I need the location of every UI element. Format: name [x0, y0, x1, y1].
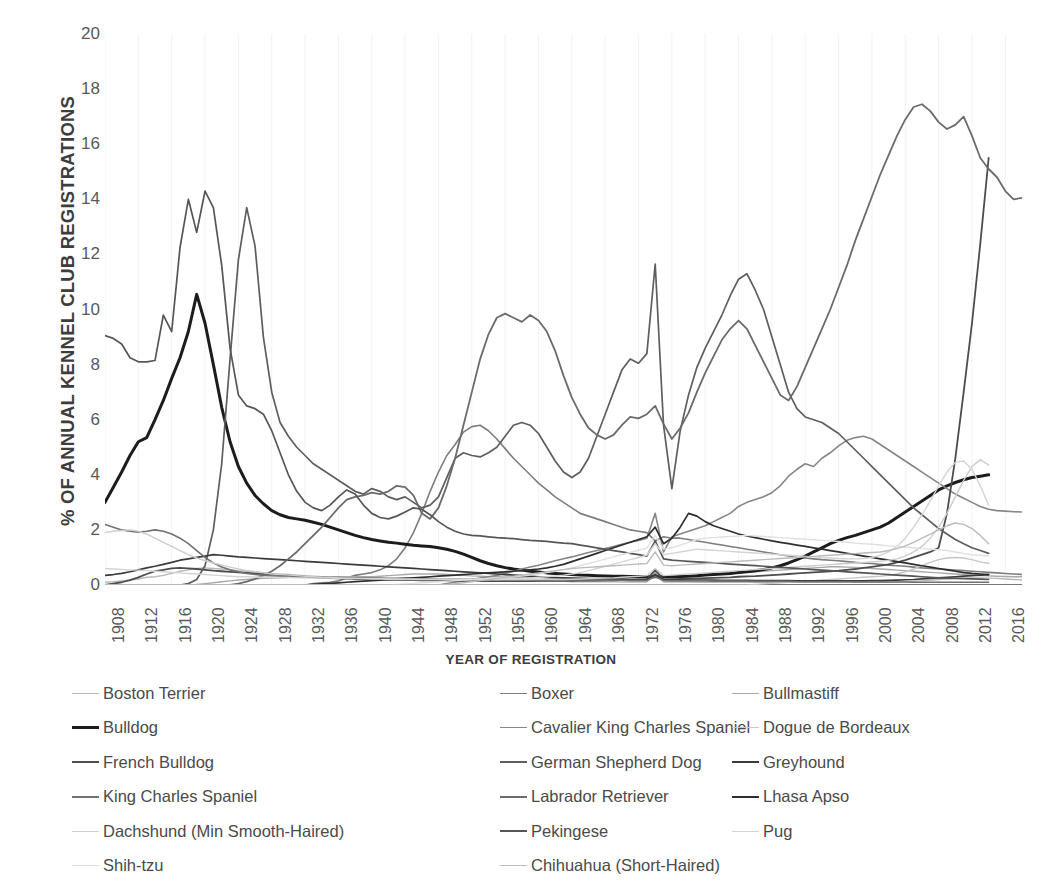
line-chart: % OF ANNUAL KENNEL CLUB REGISTRATIONS 20… — [0, 0, 1062, 895]
legend-row: Dachshund (Min Smooth-Haired)PekingesePu… — [72, 814, 1052, 849]
legend-item[interactable]: Shih-tzu — [72, 856, 500, 875]
legend-row: BulldogCavalier King Charles SpanielDogu… — [72, 711, 1052, 746]
legend-label: Dachshund (Min Smooth-Haired) — [103, 822, 344, 841]
x-tick-label: 1984 — [745, 607, 761, 643]
legend-item[interactable]: Pug — [732, 822, 1052, 841]
legend-label: Dogue de Bordeaux — [763, 718, 910, 737]
y-tick-label: 0 — [60, 576, 100, 593]
x-tick-label: 1976 — [678, 607, 694, 643]
y-tick-label: 4 — [60, 466, 100, 483]
series-line — [105, 436, 1022, 585]
legend-swatch-icon — [72, 796, 99, 798]
plot-area — [105, 34, 1022, 585]
x-axis-tick-labels: 1908191219161920192419281932193619401944… — [105, 585, 1022, 655]
x-tick-label: 1952 — [478, 607, 494, 643]
chart-legend: Boston TerrierBoxerBullmastiffBulldogCav… — [72, 676, 1052, 883]
legend-row: Boston TerrierBoxerBullmastiff — [72, 676, 1052, 711]
legend-item[interactable]: Greyhound — [732, 753, 1052, 772]
legend-label: Pug — [763, 822, 792, 841]
legend-item[interactable]: Labrador Retriever — [500, 787, 732, 806]
x-tick-label: 1988 — [778, 607, 794, 643]
x-tick-label: 1960 — [544, 607, 560, 643]
legend-swatch-icon — [72, 726, 99, 729]
legend-label: German Shepherd Dog — [531, 753, 702, 772]
legend-item[interactable]: Dachshund (Min Smooth-Haired) — [72, 822, 500, 841]
legend-swatch-icon — [500, 761, 527, 763]
legend-row: King Charles SpanielLabrador RetrieverLh… — [72, 780, 1052, 815]
series-line — [105, 104, 1022, 585]
x-tick-label: 1980 — [711, 607, 727, 643]
legend-label: French Bulldog — [103, 753, 214, 772]
y-tick-label: 10 — [60, 301, 100, 318]
legend-swatch-icon — [500, 830, 527, 832]
legend-swatch-icon — [500, 693, 527, 694]
x-tick-label: 1932 — [311, 607, 327, 643]
legend-label: Bulldog — [103, 718, 158, 737]
series-line — [105, 523, 989, 585]
legend-label: King Charles Spaniel — [103, 787, 257, 806]
y-tick-label: 14 — [60, 190, 100, 207]
legend-swatch-icon — [732, 727, 759, 728]
legend-label: Boston Terrier — [103, 684, 205, 703]
y-tick-label: 18 — [60, 80, 100, 97]
y-tick-label: 20 — [60, 25, 100, 42]
legend-swatch-icon — [732, 831, 759, 832]
legend-swatch-icon — [72, 693, 99, 694]
legend-swatch-icon — [72, 761, 99, 763]
y-tick-label: 2 — [60, 521, 100, 538]
legend-item[interactable]: Pekingese — [500, 822, 732, 841]
x-tick-label: 1968 — [611, 607, 627, 643]
series-line — [105, 294, 989, 576]
legend-item[interactable]: King Charles Spaniel — [72, 787, 500, 806]
legend-label: Pekingese — [531, 822, 608, 841]
legend-label: Cavalier King Charles Spaniel — [531, 718, 750, 737]
legend-item[interactable]: Boston Terrier — [72, 684, 500, 703]
legend-swatch-icon — [732, 796, 759, 798]
x-axis-title: YEAR OF REGISTRATION — [0, 652, 1062, 667]
y-tick-label: 6 — [60, 411, 100, 428]
legend-item[interactable]: Lhasa Apso — [732, 787, 1052, 806]
legend-label: Greyhound — [763, 753, 845, 772]
series-line — [105, 191, 989, 579]
legend-item[interactable]: German Shepherd Dog — [500, 753, 732, 772]
legend-label: Boxer — [531, 684, 574, 703]
legend-item[interactable]: Bulldog — [72, 718, 500, 737]
x-tick-label: 1924 — [244, 607, 260, 643]
x-tick-label: 1964 — [578, 607, 594, 643]
x-tick-label: 1940 — [378, 607, 394, 643]
series-line — [105, 208, 989, 585]
legend-label: Shih-tzu — [103, 856, 164, 875]
legend-item[interactable]: Dogue de Bordeaux — [732, 718, 1052, 737]
legend-item[interactable]: Boxer — [500, 684, 732, 703]
x-tick-label: 1936 — [344, 607, 360, 643]
x-tick-label: 2008 — [945, 607, 961, 643]
legend-row: French BulldogGerman Shepherd DogGreyhou… — [72, 745, 1052, 780]
legend-swatch-icon — [72, 831, 99, 832]
x-tick-label: 1956 — [511, 607, 527, 643]
x-tick-label: 2012 — [978, 607, 994, 643]
x-tick-label: 2000 — [878, 607, 894, 643]
legend-item[interactable]: French Bulldog — [72, 753, 500, 772]
y-tick-label: 8 — [60, 356, 100, 373]
legend-item[interactable]: Bullmastiff — [732, 684, 1052, 703]
series-line — [105, 460, 989, 580]
legend-row: Shih-tzuChihuahua (Short-Haired) — [72, 849, 1052, 884]
legend-label: Bullmastiff — [763, 684, 839, 703]
x-tick-label: 2004 — [911, 607, 927, 643]
legend-swatch-icon — [732, 761, 759, 763]
x-tick-label: 2016 — [1011, 607, 1027, 643]
legend-item[interactable]: Chihuahua (Short-Haired) — [500, 856, 732, 875]
x-tick-label: 1944 — [411, 607, 427, 643]
x-tick-label: 1916 — [178, 607, 194, 643]
x-tick-label: 1948 — [444, 607, 460, 643]
x-tick-label: 1920 — [211, 607, 227, 643]
x-tick-label: 1928 — [278, 607, 294, 643]
legend-swatch-icon — [732, 693, 759, 694]
x-tick-label: 1908 — [111, 607, 127, 643]
x-tick-label: 1992 — [811, 607, 827, 643]
legend-item[interactable]: Cavalier King Charles Spaniel — [500, 718, 732, 737]
legend-swatch-icon — [500, 865, 527, 866]
series-line — [105, 158, 989, 585]
legend-swatch-icon — [500, 727, 527, 728]
legend-label: Lhasa Apso — [763, 787, 849, 806]
